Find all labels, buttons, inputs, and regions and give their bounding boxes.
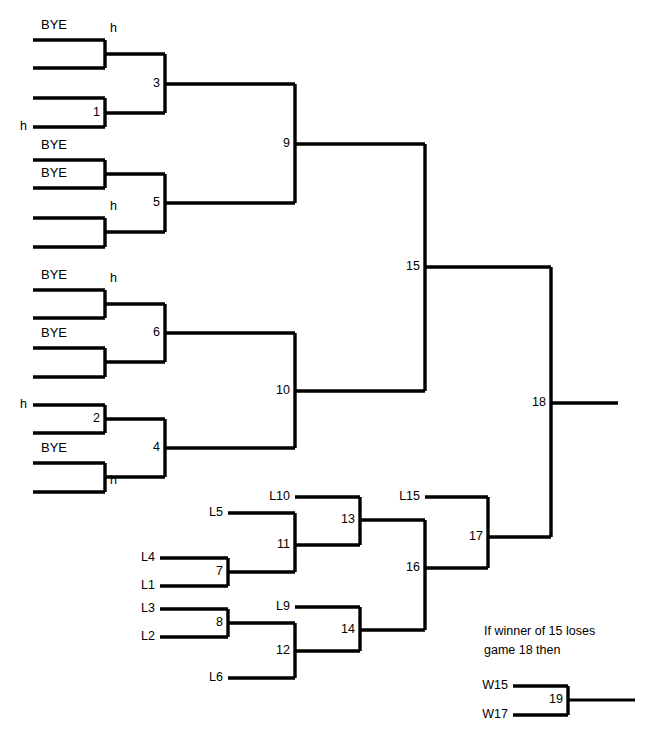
h-label-w-r1-4a: h [110, 199, 117, 213]
h-label-w-r1-8b: h [110, 473, 117, 487]
labels-group: BYEhhBYEBYEhBYEhBYEhBYEh1234569101518L5L… [20, 17, 563, 721]
slot-label-l-L6: L6 [209, 670, 223, 684]
h-label-w-r1-5a: h [110, 271, 117, 285]
game-number-1: 1 [93, 105, 100, 119]
slot-label-c-W15: W15 [482, 678, 508, 692]
game-number-17: 17 [469, 529, 483, 543]
consolation-group [513, 686, 635, 715]
bye-label-w-r1-8a: BYE [41, 440, 67, 455]
note-line-2: game 18 then [484, 643, 560, 657]
note-group: If winner of 15 loses game 18 then [484, 624, 595, 657]
bye-label-w-r1-3a: BYE [41, 137, 67, 152]
game-number-16: 16 [406, 560, 420, 574]
game-number-7: 7 [216, 564, 223, 578]
game-number-3: 3 [153, 76, 160, 90]
slot-label-c-W17: W17 [482, 707, 508, 721]
winners-connectors-group [105, 40, 618, 537]
game-number-13: 13 [341, 512, 355, 526]
slot-label-l-L15: L15 [399, 489, 420, 503]
slot-label-l-L9: L9 [276, 599, 290, 613]
slot-label-l-L10: L10 [269, 489, 290, 503]
game-number-5: 5 [153, 195, 160, 209]
slot-label-l-L5: L5 [209, 505, 223, 519]
tournament-bracket-diagram: BYEhhBYEBYEhBYEhBYEhBYEh1234569101518L5L… [0, 0, 649, 751]
h-label-w-r1-1a: h [110, 21, 117, 35]
game-number-14: 14 [341, 622, 355, 636]
slot-label-w-r1-7a: h [20, 397, 27, 411]
game-number-2: 2 [93, 411, 100, 425]
bye-label-w-r1-1a: BYE [41, 17, 67, 32]
game-number-11: 11 [277, 537, 290, 551]
game-number-4: 4 [153, 440, 160, 454]
game-number-19: 19 [549, 692, 563, 706]
bracket-canvas: BYEhhBYEBYEhBYEhBYEhBYEh1234569101518L5L… [0, 0, 649, 751]
slot-label-l-L2: L2 [141, 629, 155, 643]
slot-label-l-L1: L1 [141, 578, 155, 592]
note-line-1: If winner of 15 loses [484, 624, 595, 638]
game-number-8: 8 [216, 615, 223, 629]
game-number-9: 9 [283, 136, 290, 150]
game-number-12: 12 [276, 643, 290, 657]
slot-label-w-r1-2b: h [20, 119, 27, 133]
bye-label-w-r1-5a: BYE [41, 267, 67, 282]
bye-label-w-r1-3b: BYE [41, 165, 67, 180]
game-number-18: 18 [532, 395, 546, 409]
game-number-6: 6 [153, 325, 160, 339]
bye-label-w-r1-6a: BYE [41, 325, 67, 340]
slot-label-l-L4: L4 [141, 550, 155, 564]
game-number-10: 10 [276, 383, 290, 397]
game-number-15: 15 [406, 259, 420, 273]
slot-label-l-L3: L3 [141, 601, 155, 615]
